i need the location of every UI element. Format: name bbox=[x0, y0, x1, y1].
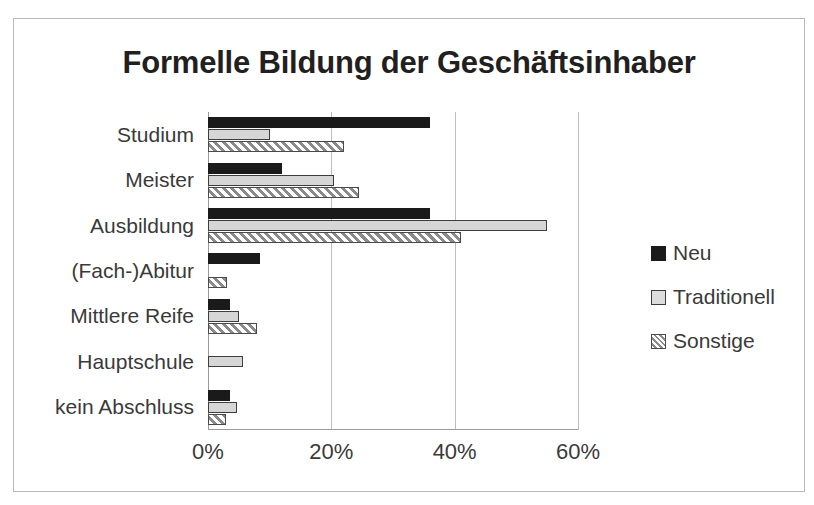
x-tick-label: 60% bbox=[556, 439, 600, 465]
gridline-60 bbox=[578, 112, 579, 430]
legend-swatch-neu-icon bbox=[651, 246, 666, 261]
legend-label: Sonstige bbox=[673, 329, 755, 353]
chart-legend: NeuTraditionellSonstige bbox=[651, 231, 801, 363]
bar-sonst bbox=[208, 277, 227, 288]
bar-group: Ausbildung bbox=[208, 203, 578, 248]
category-label: Mittlere Reife bbox=[70, 304, 194, 328]
bar-neu bbox=[208, 163, 282, 174]
bar-neu bbox=[208, 299, 230, 310]
bar-sonst bbox=[208, 141, 344, 152]
bar-trad bbox=[208, 220, 547, 231]
bar-group: kein Abschluss bbox=[208, 385, 578, 430]
category-label: Studium bbox=[117, 123, 194, 147]
x-tick-label: 40% bbox=[433, 439, 477, 465]
legend-item-sonstige[interactable]: Sonstige bbox=[651, 319, 801, 363]
legend-label: Traditionell bbox=[673, 285, 775, 309]
plot-area: StudiumMeisterAusbildung(Fach-)AbiturMit… bbox=[208, 112, 578, 430]
legend-swatch-traditionell-icon bbox=[651, 290, 666, 305]
x-axis-line bbox=[208, 429, 578, 430]
x-tick-label: 20% bbox=[309, 439, 353, 465]
bar-group: Studium bbox=[208, 112, 578, 157]
category-label: kein Abschluss bbox=[55, 395, 194, 419]
bar-trad bbox=[208, 311, 239, 322]
bar-group: Mittlere Reife bbox=[208, 294, 578, 339]
bar-neu bbox=[208, 208, 430, 219]
legend-swatch-sonstige-icon bbox=[651, 334, 666, 349]
bar-group: Meister bbox=[208, 157, 578, 202]
bar-sonst bbox=[208, 323, 257, 334]
category-label: (Fach-)Abitur bbox=[71, 259, 194, 283]
legend-item-traditionell[interactable]: Traditionell bbox=[651, 275, 801, 319]
bar-neu bbox=[208, 253, 260, 264]
bar-trad bbox=[208, 356, 243, 367]
bar-neu bbox=[208, 390, 230, 401]
legend-item-neu[interactable]: Neu bbox=[651, 231, 801, 275]
x-tick-label: 0% bbox=[192, 439, 224, 465]
bar-group: (Fach-)Abitur bbox=[208, 248, 578, 293]
category-label: Hauptschule bbox=[77, 350, 194, 374]
chart-title: Formelle Bildung der Geschäftsinhaber bbox=[14, 45, 804, 81]
bar-group: Hauptschule bbox=[208, 339, 578, 384]
category-label: Ausbildung bbox=[90, 214, 194, 238]
legend-label: Neu bbox=[673, 241, 712, 265]
bar-trad bbox=[208, 402, 237, 413]
bar-sonst bbox=[208, 232, 461, 243]
bar-sonst bbox=[208, 187, 359, 198]
category-label: Meister bbox=[125, 168, 194, 192]
bar-trad bbox=[208, 175, 334, 186]
chart-frame: Formelle Bildung der Geschäftsinhaber St… bbox=[13, 18, 805, 492]
bar-trad bbox=[208, 129, 270, 140]
bar-sonst bbox=[208, 414, 226, 425]
bar-neu bbox=[208, 117, 430, 128]
